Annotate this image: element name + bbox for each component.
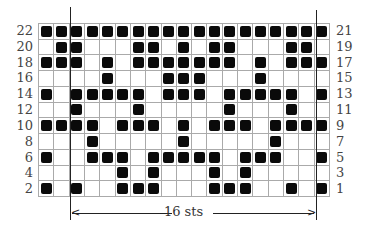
filled-stitch-marker	[301, 120, 312, 131]
stitch-cell	[238, 71, 253, 87]
stitch-cell	[162, 103, 177, 119]
stitch-cell	[253, 55, 268, 71]
filled-stitch-marker	[224, 42, 235, 53]
filled-stitch-marker	[87, 152, 98, 163]
filled-stitch-marker	[178, 136, 189, 147]
stitch-cell	[100, 71, 115, 87]
filled-stitch-marker	[194, 152, 205, 163]
stitch-cell	[177, 40, 192, 56]
stitch-cell	[177, 181, 192, 197]
stitch-cell	[207, 103, 222, 119]
filled-stitch-marker	[301, 26, 312, 37]
stitch-cell	[70, 181, 85, 197]
stitch-cell	[253, 166, 268, 182]
stitch-cell	[70, 40, 85, 56]
stitch-cell	[177, 24, 192, 40]
filled-stitch-marker	[102, 152, 113, 163]
filled-stitch-marker	[209, 42, 220, 53]
stitch-cell	[131, 55, 146, 71]
stitch-cell	[85, 150, 100, 166]
stitch-cell	[284, 55, 299, 71]
row-number-label: 10	[0, 118, 33, 134]
filled-stitch-marker	[102, 26, 113, 37]
filled-stitch-marker	[178, 73, 189, 84]
knitting-chart: 222018161412108642 21191715131197531 < >…	[0, 0, 367, 235]
filled-stitch-marker	[270, 120, 281, 131]
filled-stitch-marker	[224, 26, 235, 37]
filled-stitch-marker	[255, 89, 266, 100]
filled-stitch-marker	[255, 26, 266, 37]
stitch-cell	[207, 150, 222, 166]
stitch-cell	[269, 166, 284, 182]
stitch-cell	[238, 103, 253, 119]
filled-stitch-marker	[71, 57, 82, 68]
stitch-cell	[192, 24, 207, 40]
stitch-cell	[207, 40, 222, 56]
filled-stitch-marker	[148, 167, 159, 178]
stitch-cell	[100, 87, 115, 103]
stitch-cell	[70, 150, 85, 166]
stitch-cell	[299, 166, 314, 182]
filled-stitch-marker	[178, 57, 189, 68]
filled-stitch-marker	[117, 26, 128, 37]
stitch-cell	[238, 181, 253, 197]
filled-stitch-marker	[301, 42, 312, 53]
stitch-cell	[284, 118, 299, 134]
stitch-cell	[284, 166, 299, 182]
stitch-cell	[100, 24, 115, 40]
stitch-cell	[192, 181, 207, 197]
stitch-cell	[269, 40, 284, 56]
stitch-cell	[39, 103, 54, 119]
filled-stitch-marker	[148, 26, 159, 37]
stitch-cell	[131, 166, 146, 182]
filled-stitch-marker	[148, 57, 159, 68]
stitch-cell	[146, 71, 161, 87]
stitch-cell	[284, 71, 299, 87]
stitch-cell	[207, 181, 222, 197]
filled-stitch-marker	[41, 89, 52, 100]
stitch-cell	[223, 24, 238, 40]
stitch-cell	[54, 103, 69, 119]
row-number-label: 15	[336, 70, 366, 86]
stitch-cell	[131, 24, 146, 40]
filled-stitch-marker	[286, 42, 297, 53]
filled-stitch-marker	[255, 57, 266, 68]
stitch-cell	[70, 71, 85, 87]
row-number-label: 11	[336, 102, 366, 118]
stitch-cell	[299, 118, 314, 134]
filled-stitch-marker	[56, 26, 67, 37]
stitch-cell	[207, 134, 222, 150]
filled-stitch-marker	[240, 26, 251, 37]
stitch-cell	[223, 150, 238, 166]
stitch-cell	[54, 150, 69, 166]
stitch-cell	[253, 24, 268, 40]
filled-stitch-marker	[102, 57, 113, 68]
filled-stitch-marker	[194, 26, 205, 37]
row-number-label: 19	[336, 39, 366, 55]
stitch-cell	[162, 150, 177, 166]
stitch-cell	[284, 87, 299, 103]
stitch-cell	[100, 118, 115, 134]
filled-stitch-marker	[133, 26, 144, 37]
filled-stitch-marker	[87, 136, 98, 147]
stitch-cell	[131, 150, 146, 166]
stitch-cell	[299, 87, 314, 103]
stitch-cell	[116, 166, 131, 182]
stitch-cell	[162, 166, 177, 182]
stitch-cell	[299, 150, 314, 166]
filled-stitch-marker	[71, 183, 82, 194]
stitch-cell	[54, 24, 69, 40]
stitch-cell	[207, 71, 222, 87]
stitch-cell	[223, 55, 238, 71]
stitch-cell	[162, 181, 177, 197]
row-number-label: 22	[0, 23, 33, 39]
filled-stitch-marker	[209, 57, 220, 68]
stitch-cell	[177, 71, 192, 87]
filled-stitch-marker	[71, 104, 82, 115]
filled-stitch-marker	[102, 89, 113, 100]
filled-stitch-marker	[316, 89, 327, 100]
filled-stitch-marker	[163, 57, 174, 68]
stitch-cell	[299, 103, 314, 119]
filled-stitch-marker	[316, 57, 327, 68]
stitch-cell	[177, 150, 192, 166]
